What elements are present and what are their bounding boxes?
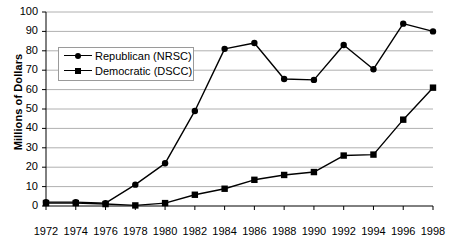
data-point [400,20,406,26]
y-tick-label: 60 [12,84,38,95]
data-point [430,28,436,34]
data-point [430,84,436,90]
data-point [340,42,346,48]
y-tick-label: 10 [12,181,38,192]
data-point [311,77,317,83]
data-point [132,181,138,187]
y-tick-label: 100 [12,6,38,17]
data-point [281,172,287,178]
y-tick-label: 70 [12,64,38,75]
data-point [281,76,287,82]
data-point [370,66,376,72]
legend-label-republican: Republican (NRSC) [93,50,192,62]
y-tick-label: 40 [12,122,38,133]
data-point [340,152,346,158]
legend-label-democratic: Democratic (DSCC) [93,65,192,77]
legend-item-republican: Republican (NRSC) [59,48,193,63]
data-point [400,116,406,122]
data-point [251,40,257,46]
data-point [162,160,168,166]
y-tick-label: 30 [12,142,38,153]
y-tick-label: 0 [12,200,38,211]
x-tick-label: 1998 [416,226,450,237]
data-point [192,192,198,198]
data-point [192,108,198,114]
y-tick-label: 20 [12,161,38,172]
data-point [132,202,138,208]
data-point [251,177,257,183]
data-point [43,200,49,206]
series-line-2 [46,88,433,206]
chart-legend: Republican (NRSC) Democratic (DSCC) [58,47,194,81]
legend-item-democratic: Democratic (DSCC) [59,63,193,78]
data-point [162,200,168,206]
legend-marker-square-icon [63,65,93,77]
y-tick-label: 80 [12,45,38,56]
data-point [102,201,108,207]
y-tick-label: 90 [12,25,38,36]
data-point [73,200,79,206]
y-tick-label: 50 [12,103,38,114]
data-point [311,169,317,175]
data-point [221,186,227,192]
data-point [370,151,376,157]
legend-marker-circle-icon [63,50,93,62]
data-point [221,46,227,52]
